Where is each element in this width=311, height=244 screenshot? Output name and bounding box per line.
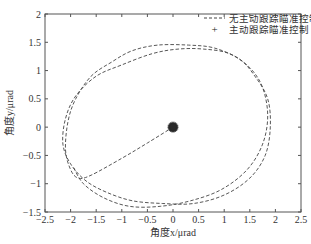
legend-plus-marker-icon: + [211, 23, 217, 35]
y-tick-label: 0.5 [29, 93, 42, 104]
legend: 无主动跟踪瞄准控制 + 主动跟踪瞄准控制 [204, 13, 311, 36]
y-tick-label: −1 [30, 178, 41, 189]
x-tick-label: 0.5 [192, 214, 205, 225]
legend-label-no-tracking: 无主动跟踪瞄准控制 [229, 13, 311, 24]
x-tick-label: 2 [273, 214, 278, 225]
x-tick-label: −0.5 [138, 214, 156, 225]
legend-label-tracking: 主动跟踪瞄准控制 [229, 24, 309, 35]
y-tick-label: 0 [36, 122, 41, 133]
x-tick-label: −1.5 [87, 214, 105, 225]
plot-frame [45, 14, 301, 212]
y-tick-label: −1.5 [23, 207, 41, 218]
y-tick-label: −0.5 [23, 150, 41, 161]
x-axis-title: 角度x/μrad [150, 226, 196, 238]
series-no-tracking-line [63, 45, 271, 208]
axes: −2.5−2−1.5−1−0.500.511.522.5−1.5−1−0.500… [23, 9, 307, 226]
y-tick-label: 1.5 [29, 37, 42, 48]
y-tick-label: 1 [36, 65, 41, 76]
y-axis-title: 角度y/μrad [3, 90, 15, 136]
x-tick-label: 1 [222, 214, 227, 225]
series-layer [63, 45, 271, 208]
x-tick-label: −1 [116, 214, 127, 225]
chart-canvas: −2.5−2−1.5−1−0.500.511.522.5−1.5−1−0.500… [0, 0, 311, 244]
x-tick-label: 2.5 [295, 214, 308, 225]
y-tick-label: 2 [36, 9, 41, 20]
x-tick-label: 0 [171, 214, 176, 225]
x-tick-label: 1.5 [244, 214, 257, 225]
x-tick-label: −2 [65, 214, 76, 225]
